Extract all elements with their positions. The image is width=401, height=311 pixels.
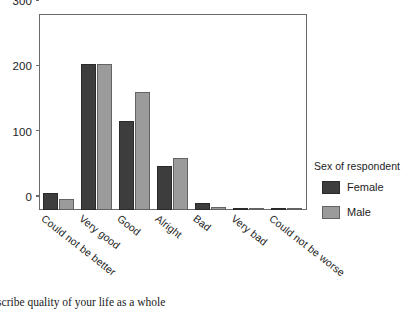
y-tick-100: 100 xyxy=(13,125,40,137)
y-axis: 300 200 100 0 xyxy=(0,0,39,196)
bar-group xyxy=(119,14,157,210)
y-tick-label: 100 xyxy=(13,126,37,138)
legend-swatch-male-icon xyxy=(322,206,340,219)
bar-female xyxy=(233,208,248,210)
bar-female xyxy=(271,208,286,210)
bar-male xyxy=(287,208,302,210)
bar-male xyxy=(135,92,150,210)
bar-female xyxy=(43,193,58,210)
x-axis-label: Alright xyxy=(153,213,184,240)
bar-chart-figure: 300 200 100 0 Could not be betterVery go… xyxy=(0,0,401,311)
bar-male xyxy=(249,208,264,210)
legend-label-female: Female xyxy=(347,181,384,193)
y-tick-300: 300 xyxy=(13,0,40,6)
bar-female xyxy=(119,121,134,210)
y-tick-label: 300 xyxy=(13,0,37,7)
legend-item-male[interactable]: Male xyxy=(314,203,400,221)
bar-group xyxy=(195,14,233,210)
bar-female xyxy=(157,166,172,210)
bar-male xyxy=(211,207,226,210)
figure-caption: escribe quality of your life as a whole xyxy=(0,296,165,309)
bar-group xyxy=(157,14,195,210)
legend-item-female[interactable]: Female xyxy=(314,178,400,196)
legend-label-male: Male xyxy=(347,206,371,218)
bar-male xyxy=(59,199,74,210)
y-tick-label: 0 xyxy=(26,191,37,203)
bar-group xyxy=(81,14,119,210)
bar-group xyxy=(233,14,271,210)
legend-title: Sex of respondent xyxy=(314,160,400,172)
x-axis-label: Very good xyxy=(77,213,122,251)
x-axis-label: Very bad xyxy=(229,213,269,248)
bar-male xyxy=(173,158,188,210)
x-axis-label: Bad xyxy=(191,213,213,233)
bar-female xyxy=(195,203,210,210)
y-tick-200: 200 xyxy=(13,59,40,71)
legend: Sex of respondent Female Male xyxy=(314,160,400,228)
bars-layer xyxy=(41,14,307,210)
y-tick-label: 200 xyxy=(13,60,37,72)
x-axis-label: Good xyxy=(115,213,142,238)
bar-male xyxy=(97,64,112,210)
bar-female xyxy=(81,64,96,210)
y-tick-mark xyxy=(36,0,39,1)
bar-group xyxy=(43,14,81,210)
y-tick-0: 0 xyxy=(26,190,40,202)
bar-group xyxy=(271,14,309,210)
x-axis-label: Could not be better xyxy=(39,213,118,278)
legend-swatch-female-icon xyxy=(322,181,340,194)
